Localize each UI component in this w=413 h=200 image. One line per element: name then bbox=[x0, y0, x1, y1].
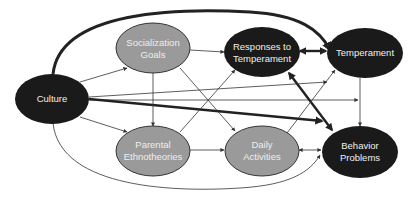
node-label-temperament: Temperament bbox=[336, 47, 394, 58]
node-label-socialization-goals-line2: Goals bbox=[141, 49, 166, 60]
node-parental-ethnotheories: Parental Ethnotheories bbox=[116, 126, 190, 176]
edge-culture-to-behavior-problems-thick bbox=[89, 99, 322, 121]
culture-temperament-model-diagram: Culture Socialization Goals Responses to… bbox=[0, 0, 413, 200]
node-label-behavior-line2: Problems bbox=[340, 152, 380, 163]
node-label-responses-line1: Responses to bbox=[233, 41, 291, 52]
node-label-behavior-line1: Behavior bbox=[341, 140, 379, 151]
node-temperament: Temperament bbox=[327, 28, 403, 78]
edge-culture-to-temperament-thin bbox=[89, 82, 327, 97]
node-label-parental-line2: Ethnotheories bbox=[124, 151, 183, 162]
node-responses-to-temperament: Responses to Temperament bbox=[224, 27, 300, 77]
node-behavior-problems: Behavior Problems bbox=[322, 126, 398, 178]
edge-parental-to-responses bbox=[180, 70, 235, 132]
edge-culture-to-parental-ethnotheories bbox=[80, 117, 127, 132]
node-daily-activities: Daily Activities bbox=[225, 126, 299, 176]
node-label-daily-line1: Daily bbox=[251, 139, 272, 150]
node-label-culture: Culture bbox=[37, 93, 68, 104]
edge-culture-to-socialization-goals bbox=[80, 68, 127, 82]
node-label-daily-line2: Activities bbox=[243, 151, 281, 162]
edge-socialization-to-responses bbox=[190, 50, 224, 52]
node-socialization-goals: Socialization Goals bbox=[116, 23, 190, 73]
edges bbox=[53, 11, 360, 189]
node-label-parental-line1: Parental bbox=[135, 139, 170, 150]
node-label-socialization-goals-line1: Socialization bbox=[126, 37, 179, 48]
edge-socialization-to-daily bbox=[180, 68, 235, 131]
node-label-responses-line2: Temperament bbox=[233, 53, 291, 64]
node-culture: Culture bbox=[15, 74, 89, 124]
